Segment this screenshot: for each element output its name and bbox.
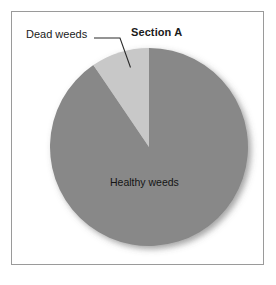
figure-root: Section A Dead weeds Healthy weeds — [0, 0, 276, 285]
pie-label-healthy-weeds: Healthy weeds — [110, 176, 179, 188]
chart-title: Section A — [131, 26, 182, 38]
pie-group — [50, 48, 248, 246]
pie-label-dead-weeds: Dead weeds — [26, 28, 87, 40]
pie-chart-canvas — [0, 0, 276, 285]
